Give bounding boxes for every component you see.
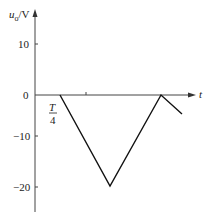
x-axis-arrow-icon	[188, 93, 196, 98]
t4-numerator: T	[49, 102, 55, 113]
y-tick-label-m20: −20	[13, 182, 30, 193]
y-axis-arrow-icon	[33, 9, 38, 17]
t4-denominator: 4	[50, 115, 56, 126]
chart-canvas	[0, 0, 210, 221]
y-tick-label-10: 10	[18, 39, 29, 50]
waveform-line	[60, 95, 182, 186]
y-axis-label: uo/V	[9, 9, 30, 23]
y-unit: /V	[19, 8, 30, 20]
x-axis-label: t	[199, 89, 202, 100]
y-tick-label-0: 0	[23, 90, 29, 101]
y-tick-label-m10: −10	[13, 131, 30, 142]
